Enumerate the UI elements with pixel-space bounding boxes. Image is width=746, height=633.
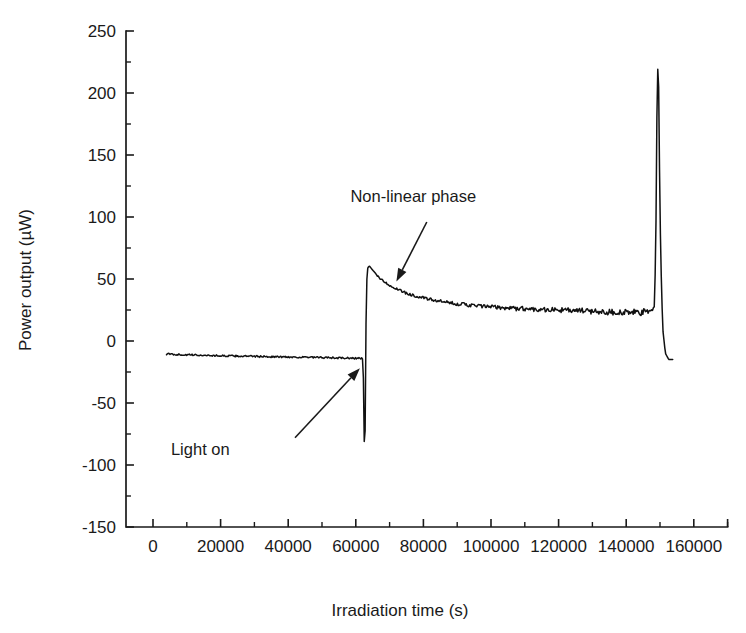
- chart-figure: 0200004000060000800001000001200001400001…: [0, 0, 746, 633]
- x-tick-label: 160000: [665, 537, 722, 556]
- annotation-non-linear-phase: Non-linear phase: [350, 187, 476, 281]
- x-tick-label: 40000: [265, 537, 312, 556]
- annotation-light-on: Light on: [171, 368, 360, 458]
- y-tick-label: 150: [88, 146, 116, 165]
- x-axis-tick-labels: 0200004000060000800001000001200001400001…: [148, 537, 722, 556]
- y-tick-label: 250: [88, 22, 116, 41]
- y-tick-label: -150: [82, 518, 116, 537]
- power-output-line-chart: 0200004000060000800001000001200001400001…: [0, 0, 746, 633]
- annotation-label-light-on: Light on: [171, 440, 230, 458]
- x-tick-label: 0: [148, 537, 157, 556]
- x-tick-label: 20000: [197, 537, 244, 556]
- y-tick-label: -100: [82, 456, 116, 475]
- y-axis-tick-labels: -150-100-50050100150200250: [82, 22, 116, 537]
- annotation-arrow-head: [396, 268, 406, 282]
- y-axis-title: Power output (µW): [16, 209, 35, 351]
- x-tick-label: 80000: [400, 537, 447, 556]
- annotation-arrow-shaft: [295, 378, 351, 438]
- y-tick-label: 0: [107, 332, 116, 351]
- y-tick-label: 200: [88, 84, 116, 103]
- x-tick-label: 60000: [332, 537, 379, 556]
- data-trace-group: [167, 69, 673, 441]
- x-tick-label: 100000: [463, 537, 520, 556]
- x-axis-title: Irradiation time (s): [332, 601, 469, 620]
- x-tick-label: 120000: [530, 537, 587, 556]
- y-tick-label: -50: [91, 394, 116, 413]
- chart-annotations: Light onNon-linear phase: [171, 187, 476, 458]
- y-tick-label: 100: [88, 208, 116, 227]
- annotation-arrow-shaft: [402, 222, 427, 270]
- annotation-label-non-linear-phase: Non-linear phase: [350, 187, 476, 205]
- y-tick-label: 50: [97, 270, 116, 289]
- x-tick-label: 140000: [598, 537, 655, 556]
- power-output-trace: [167, 69, 673, 441]
